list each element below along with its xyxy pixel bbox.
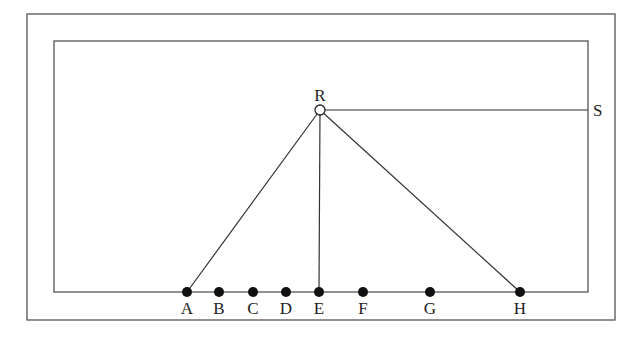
label-f: F: [358, 299, 367, 318]
label-s: S: [593, 101, 602, 120]
point-g: [425, 287, 435, 297]
label-g: G: [424, 299, 436, 318]
apex-r-marker: [315, 105, 325, 115]
point-c: [248, 287, 258, 297]
segment-rh: [320, 110, 520, 292]
outer-frame: [27, 14, 615, 320]
point-f: [358, 287, 368, 297]
label-e: E: [314, 299, 324, 318]
point-b: [214, 287, 224, 297]
label-r: R: [314, 86, 326, 105]
label-d: D: [280, 299, 292, 318]
label-h: H: [514, 299, 526, 318]
label-a: A: [181, 299, 194, 318]
label-c: C: [247, 299, 258, 318]
point-a: [182, 287, 192, 297]
point-h: [515, 287, 525, 297]
point-d: [281, 287, 291, 297]
segment-re: [319, 110, 320, 292]
label-b: B: [213, 299, 224, 318]
inner-frame: [54, 41, 588, 292]
diagram-canvas: R S ABCDEFGH: [0, 0, 638, 341]
segments: [187, 110, 588, 292]
point-e: [314, 287, 324, 297]
segment-ra: [187, 110, 320, 292]
